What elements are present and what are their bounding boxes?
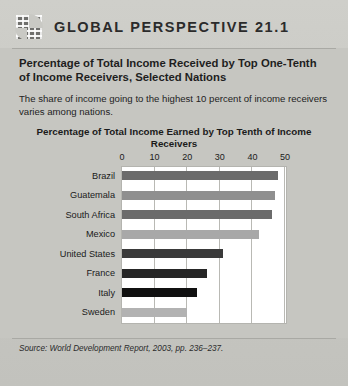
bar [122,288,197,297]
bar-row: Guatemala [19,186,329,206]
bar-row-label: Mexico [19,229,115,239]
x-tick-label: 10 [150,152,160,162]
x-tick-label: 30 [215,152,225,162]
bar-row: United States [19,244,329,264]
bar [122,249,223,258]
divider-top [12,48,336,49]
box-lede-text: The share of income going to the highest… [19,92,327,118]
x-tick-label: 20 [182,152,192,162]
bar-row-label: France [19,268,115,278]
bar-row: Mexico [19,225,329,245]
bar-row: Brazil [19,166,329,186]
bar-chart: 01020304050 BrazilGuatemalaSouth AfricaM… [19,152,329,334]
box-subtitle: Percentage of Total Income Received by T… [19,56,329,84]
bar [122,191,275,200]
source-note: Source: World Development Report, 2003, … [19,344,223,353]
bar [122,269,207,278]
bar-row: Italy [19,283,329,303]
x-axis-tick-labels: 01020304050 [19,152,329,166]
bar-row: Sweden [19,303,329,323]
bar-row: South Africa [19,205,329,225]
bar-row-label: Guatemala [19,190,115,200]
bar [122,171,278,180]
box-header: GLOBAL PERSPECTIVE 21.1 [0,10,348,44]
divider-bottom [12,338,336,339]
chart-title: Percentage of Total Income Earned by Top… [19,126,329,150]
bar-row-label: Brazil [19,171,115,181]
bar-rows: BrazilGuatemalaSouth AfricaMexicoUnited … [19,166,329,322]
bar-row-label: Sweden [19,307,115,317]
globe-grid-icon [16,15,42,39]
x-tick-label: 40 [247,152,257,162]
bar-row-label: South Africa [19,210,115,220]
x-tick-label: 50 [280,152,290,162]
box-header-title: GLOBAL PERSPECTIVE 21.1 [54,19,290,35]
bar [122,308,187,317]
bar-row: France [19,264,329,284]
bar-row-label: United States [19,249,115,259]
bar-row-label: Italy [19,288,115,298]
x-tick-label: 0 [119,152,124,162]
global-perspective-box: GLOBAL PERSPECTIVE 21.1 Percentage of To… [0,0,348,386]
bar [122,230,259,239]
bar [122,210,272,219]
